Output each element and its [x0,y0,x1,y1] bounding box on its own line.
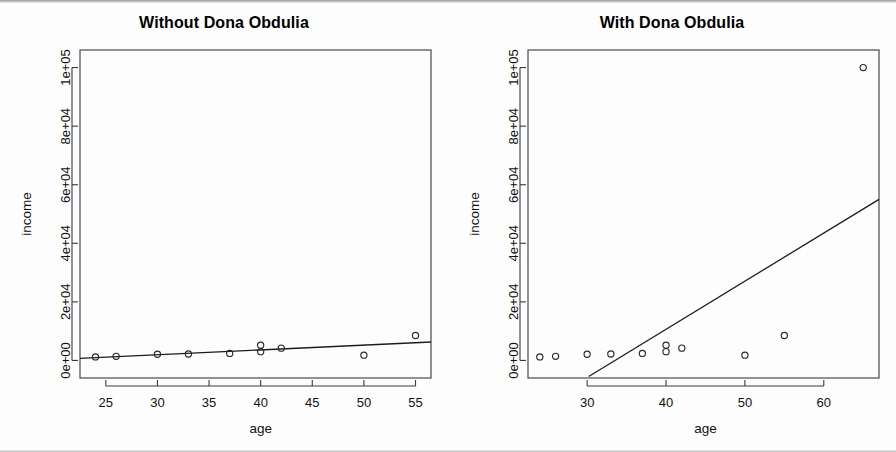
scatter-plot-right: 0e+002e+044e+046e+048e+041e+05income3040… [448,0,896,452]
y-tick-label: 8e+04 [507,108,522,145]
x-axis-title: age [249,421,272,436]
x-tick-label: 40 [253,395,267,410]
regression-line [80,342,431,358]
x-tick-label: 45 [305,395,319,410]
x-tick-label: 30 [150,395,164,410]
scatter-plot-left: 0e+002e+044e+046e+048e+041e+05income2530… [0,0,448,452]
data-point [608,351,614,357]
y-tick-label: 6e+04 [507,166,522,203]
x-tick-label: 60 [817,395,831,410]
y-tick-label: 2e+04 [59,284,74,321]
x-tick-label: 50 [738,395,752,410]
y-tick-label: 2e+04 [507,284,522,321]
data-point [781,332,787,338]
y-tick-label: 8e+04 [59,108,74,145]
data-point [412,332,418,338]
x-tick-label: 55 [408,395,422,410]
data-point [278,345,284,351]
x-tick-label: 35 [202,395,216,410]
y-tick-label: 6e+04 [59,166,74,203]
y-tick-label: 0e+00 [507,342,522,379]
panel-with-dona-obdulia: With Dona Obdulia 0e+002e+044e+046e+048e… [448,0,896,452]
y-tick-label: 1e+05 [59,49,74,86]
data-point [537,354,543,360]
data-point [663,342,669,348]
y-tick-label: 1e+05 [507,49,522,86]
data-point [553,353,559,359]
y-tick-label: 4e+04 [507,225,522,262]
y-axis-title: income [19,192,34,236]
x-tick-label: 50 [357,395,371,410]
plot-box [80,50,431,378]
data-point [663,349,669,355]
data-point [860,64,866,70]
x-tick-label: 30 [580,395,594,410]
figure-canvas: Without Dona Obdulia 0e+002e+044e+046e+0… [0,0,896,452]
y-axis-title: income [467,192,482,236]
x-tick-label: 25 [99,395,113,410]
data-point [361,352,367,358]
x-axis-title: age [694,421,717,436]
panel-without-dona-obdulia: Without Dona Obdulia 0e+002e+044e+046e+0… [0,0,448,452]
plot-box [528,50,879,378]
data-point [639,350,645,356]
data-point [679,345,685,351]
data-point [742,352,748,358]
data-point [258,342,264,348]
data-point [584,351,590,357]
y-tick-label: 0e+00 [59,342,74,379]
x-tick-label: 40 [659,395,673,410]
y-tick-label: 4e+04 [59,225,74,262]
regression-line [589,199,879,376]
